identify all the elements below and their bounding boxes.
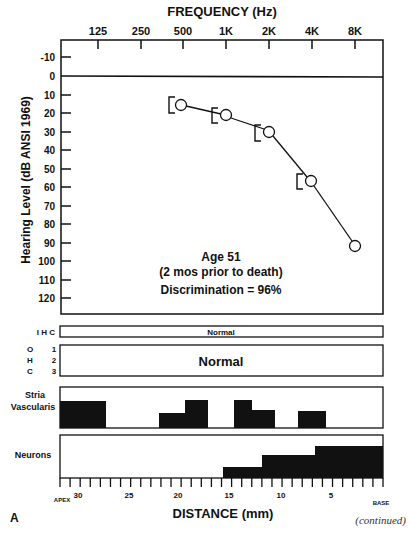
svg-text:15: 15 bbox=[225, 491, 234, 500]
svg-text:110: 110 bbox=[39, 275, 56, 286]
db-ticks bbox=[61, 57, 71, 298]
svg-text:-10: -10 bbox=[41, 52, 56, 63]
circle-marker-4k bbox=[306, 176, 317, 187]
base-label: BASE bbox=[373, 500, 390, 506]
ihc-status: Normal bbox=[207, 328, 235, 337]
svg-text:60: 60 bbox=[44, 182, 56, 193]
ihc-row-label: I H C bbox=[37, 328, 55, 337]
svg-text:90: 90 bbox=[44, 238, 56, 249]
svg-text:Age 51: Age 51 bbox=[201, 250, 241, 264]
frequency-axis-title: FREQUENCY (Hz) bbox=[167, 4, 277, 19]
ohc-row-labels: O H C 1 2 3 bbox=[27, 345, 57, 376]
svg-text:100: 100 bbox=[38, 256, 55, 267]
svg-text:2: 2 bbox=[52, 356, 57, 365]
freq-label-125: 125 bbox=[89, 25, 107, 37]
bracket-marker-4k bbox=[297, 174, 303, 189]
bracket-marker-1k bbox=[212, 108, 218, 123]
svg-text:20: 20 bbox=[174, 491, 183, 500]
circle-marker-500 bbox=[176, 100, 187, 111]
continued-note: (continued) bbox=[355, 514, 406, 527]
stria-loss-bars bbox=[60, 400, 326, 428]
zero-db-reference-line bbox=[61, 76, 383, 77]
freq-label-2k: 2K bbox=[262, 25, 276, 37]
svg-text:H: H bbox=[27, 356, 33, 365]
freq-label-250: 250 bbox=[132, 25, 150, 37]
stria-label-line2: Vascularis bbox=[11, 402, 56, 412]
svg-text:70: 70 bbox=[44, 201, 56, 212]
circle-marker-8k bbox=[350, 241, 361, 252]
svg-text:Discrimination = 96%: Discrimination = 96% bbox=[160, 283, 281, 297]
svg-text:O: O bbox=[27, 345, 33, 354]
freq-label-8k: 8K bbox=[348, 25, 362, 37]
freq-label-500: 500 bbox=[174, 25, 192, 37]
svg-text:C: C bbox=[27, 367, 33, 376]
svg-text:30: 30 bbox=[44, 127, 56, 138]
stria-label-line1: Stria bbox=[25, 390, 46, 400]
neuron-loss-bars bbox=[223, 446, 383, 478]
freq-label-1k: 1K bbox=[219, 25, 233, 37]
distance-ticks bbox=[60, 478, 383, 487]
distance-tick-labels: 30 25 20 15 10 5 bbox=[74, 491, 334, 500]
stria-vascularis-row bbox=[60, 387, 383, 428]
distance-axis-title: DISTANCE (mm) bbox=[173, 506, 274, 521]
audiogram-cochleogram-figure: FREQUENCY (Hz) 125 250 500 1K 2K 4K 8K bbox=[0, 0, 408, 537]
circle-marker-2k bbox=[264, 127, 275, 138]
patient-annotation: Age 51 (2 mos prior to death) Discrimina… bbox=[159, 250, 282, 297]
neurons-label: Neurons bbox=[15, 450, 52, 460]
circle-marker-1k bbox=[221, 110, 232, 121]
svg-text:(2 mos prior to death): (2 mos prior to death) bbox=[159, 265, 282, 279]
svg-text:5: 5 bbox=[329, 491, 334, 500]
bracket-marker-500 bbox=[169, 97, 175, 113]
hearing-level-axis-title: Hearing Level (dB ANSI 1969) bbox=[19, 96, 33, 264]
svg-text:80: 80 bbox=[44, 219, 56, 230]
bone-conduction-markers bbox=[169, 97, 303, 189]
ohc-status: Normal bbox=[199, 354, 244, 369]
frequency-tick-labels: 125 250 500 1K 2K 4K 8K bbox=[89, 25, 362, 37]
svg-text:25: 25 bbox=[125, 491, 134, 500]
svg-text:40: 40 bbox=[44, 145, 56, 156]
svg-text:10: 10 bbox=[44, 90, 56, 101]
svg-text:120: 120 bbox=[38, 293, 55, 304]
air-conduction-markers bbox=[176, 100, 361, 252]
svg-text:50: 50 bbox=[44, 164, 56, 175]
panel-letter: A bbox=[10, 511, 19, 525]
frequency-ticks bbox=[98, 40, 355, 49]
freq-label-4k: 4K bbox=[305, 25, 319, 37]
svg-text:10: 10 bbox=[277, 491, 286, 500]
apex-label: APEX bbox=[54, 497, 70, 503]
svg-text:30: 30 bbox=[74, 491, 83, 500]
svg-text:3: 3 bbox=[52, 367, 57, 376]
svg-text:20: 20 bbox=[44, 108, 56, 119]
db-tick-labels: -10 0 10 20 30 40 50 60 70 80 90 100 110… bbox=[38, 52, 55, 304]
svg-text:0: 0 bbox=[49, 71, 55, 82]
svg-text:1: 1 bbox=[52, 345, 57, 354]
